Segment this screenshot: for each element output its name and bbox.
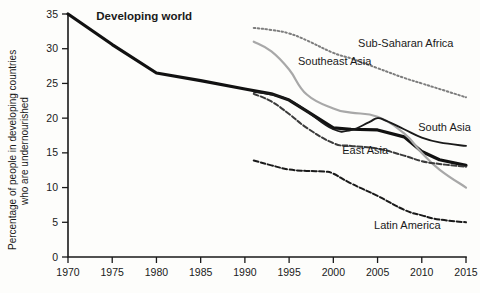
x-tick-label: 2000 [322, 266, 346, 278]
x-tick-label: 1985 [189, 266, 213, 278]
undernourishment-line-chart: Percentage of people in developing count… [0, 0, 480, 293]
series-label-developing-world: Developing world [96, 10, 192, 22]
series-line-latin-america [254, 160, 466, 222]
x-tick-label: 1980 [145, 266, 169, 278]
series-label-sub-saharan-africa: Sub-Saharan Africa [358, 37, 454, 49]
y-tick-label: 35 [46, 8, 58, 20]
y-tick-label: 25 [46, 77, 58, 89]
y-axis-title: Percentage of people in developing count… [7, 50, 30, 250]
series-label-south-asia: South Asia [418, 121, 471, 133]
chart-page: Percentage of people in developing count… [0, 0, 480, 293]
y-axis-title-line2: who are undernourished [19, 97, 30, 206]
x-tick-label: 1970 [56, 266, 80, 278]
x-tick-label: 1990 [233, 266, 257, 278]
y-tick-label: 30 [46, 42, 58, 54]
x-axis-ticks: 1970197519801985199019952000200520102015 [56, 257, 478, 278]
x-tick-label: 1975 [101, 266, 125, 278]
series-label-east-asia: East Asia [342, 144, 389, 156]
y-tick-label: 10 [46, 181, 58, 193]
y-tick-label: 0 [52, 251, 58, 263]
x-tick-label: 2005 [366, 266, 390, 278]
x-tick-label: 2010 [410, 266, 434, 278]
y-axis-ticks: 05101520253035 [46, 8, 68, 263]
y-tick-label: 20 [46, 112, 58, 124]
series-label-latin-america: Latin America [374, 219, 442, 231]
series-labels: Developing worldSub-Saharan AfricaSouthe… [96, 10, 471, 232]
y-tick-label: 5 [52, 216, 58, 228]
y-axis-title-line1: Percentage of people in developing count… [7, 50, 18, 250]
x-tick-label: 1995 [277, 266, 301, 278]
series-label-southeast-asia: Southeast Asia [298, 55, 372, 67]
x-tick-label: 2015 [454, 266, 478, 278]
y-tick-label: 15 [46, 146, 58, 158]
